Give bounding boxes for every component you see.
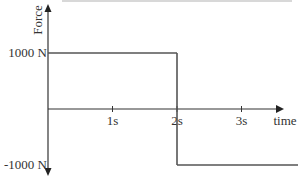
y-axis-up-arrow-icon bbox=[45, 4, 52, 12]
y-tick-label: 1000 N bbox=[8, 45, 47, 60]
y-axis-label: Force bbox=[30, 5, 45, 35]
x-axis-label: time bbox=[273, 113, 296, 128]
cropped-text-fragment bbox=[62, 0, 292, 2]
force-time-chart: 1s2s3s 1000 N-1000 N time Force bbox=[0, 0, 298, 177]
x-tick-label: 1s bbox=[107, 113, 119, 128]
y-tick-label: -1000 N bbox=[4, 157, 48, 172]
x-tick-label: 3s bbox=[236, 113, 248, 128]
x-axis-arrow-icon bbox=[276, 105, 284, 113]
